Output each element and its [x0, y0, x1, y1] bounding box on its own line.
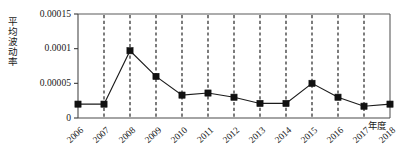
- data-point-2014: [283, 100, 289, 106]
- line-chart: 00.000050.00010.00015 200620072008200920…: [0, 0, 406, 167]
- data-point-2006: [75, 101, 81, 107]
- x-tick-label-2012: 2012: [221, 125, 242, 145]
- x-tick-label-2011: 2011: [195, 125, 216, 145]
- y-axis-tick-labels: 00.000050.00010.00015: [40, 8, 71, 123]
- x-tick-label-2010: 2010: [169, 125, 190, 145]
- data-point-2012: [231, 94, 237, 100]
- y-tick-label-1: 0.00005: [40, 77, 71, 88]
- y-axis-title-char-4: 率: [8, 57, 18, 67]
- x-tick-label-2006: 2006: [65, 125, 86, 145]
- x-tick-label-2008: 2008: [117, 125, 138, 145]
- data-point-2009: [153, 73, 159, 79]
- y-tick-label-3: 0.00015: [40, 8, 71, 19]
- data-point-2008: [127, 48, 133, 54]
- data-point-2010: [179, 92, 185, 98]
- x-tick-label-2013: 2013: [247, 125, 268, 145]
- x-tick-label-2015: 2015: [299, 125, 320, 145]
- data-point-2013: [257, 100, 263, 106]
- data-point-2007: [101, 101, 107, 107]
- x-tick-label-2016: 2016: [325, 125, 346, 145]
- x-axis-title: 年度: [368, 120, 386, 131]
- x-axis-tick-labels: 2006200720082009201020112012201320142015…: [65, 125, 398, 145]
- y-tick-label-2: 0.0001: [45, 42, 72, 53]
- x-tick-label-2009: 2009: [143, 125, 164, 145]
- y-axis-title: 平 均 波 动 率: [4, 17, 22, 66]
- data-point-2011: [205, 90, 211, 96]
- data-point-2016: [335, 94, 341, 100]
- data-point-2018: [387, 101, 393, 107]
- grid-lines: [104, 15, 364, 118]
- data-point-2017: [361, 103, 367, 109]
- y-tick-label-0: 0: [66, 112, 71, 123]
- chart-container: 平 均 波 动 率 00.000050.00010.00015 20062007…: [0, 0, 406, 167]
- x-tick-label-2007: 2007: [91, 125, 112, 145]
- x-tick-label-2014: 2014: [273, 125, 294, 145]
- data-point-2015: [309, 80, 315, 86]
